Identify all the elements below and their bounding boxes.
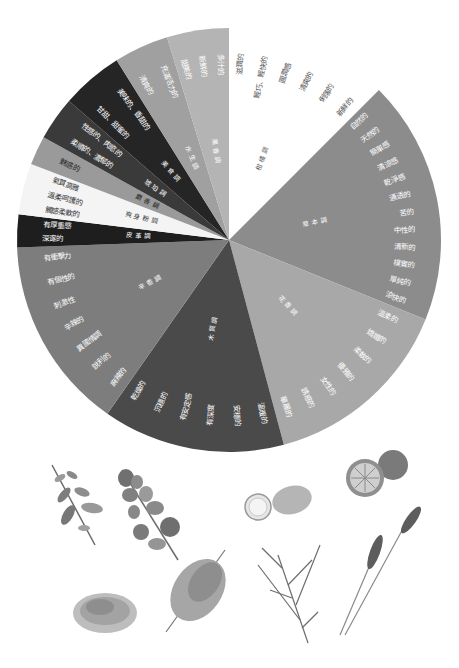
- orange-icon: [346, 450, 408, 497]
- descriptor-label: 滋潤的: [234, 53, 245, 75]
- mimosa-branch-icon: [159, 548, 237, 632]
- oregano-sprig-icon: [52, 465, 104, 545]
- descriptor-label: 清新的: [394, 241, 415, 252]
- descriptor-label: 安穩的: [232, 405, 243, 426]
- descriptor-label: 深邃的: [42, 233, 63, 243]
- descriptor-label: 多汁的: [216, 53, 227, 74]
- botanical-illustrations: [0, 450, 459, 668]
- descriptor-label: 苦的: [399, 206, 414, 218]
- fragrance-wheel: 柑橘調滋潤的輕巧、輕快的圓潤感清爽的俐落的新鮮的草本調自然的天然的簡單感清涼感乾…: [0, 0, 459, 470]
- rosemary-sprig-icon: [258, 545, 320, 643]
- wheel-wedges: [17, 28, 441, 452]
- lemon-icon: [245, 481, 315, 520]
- dried-herb-pile-icon: [73, 593, 137, 633]
- eucalyptus-sprig-icon: [118, 469, 180, 560]
- category-label: 皮革調: [126, 230, 153, 240]
- lavender-icon: [340, 504, 424, 635]
- descriptor-label: 中性的: [394, 224, 416, 235]
